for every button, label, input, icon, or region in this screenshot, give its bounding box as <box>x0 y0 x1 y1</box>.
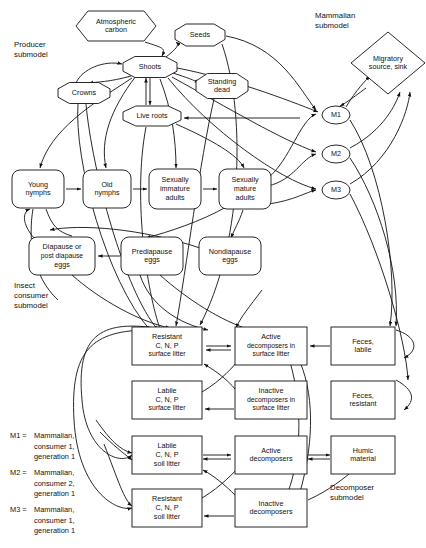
caption-mammalian: Mammalian <box>315 11 355 20</box>
edge-atmospheric-carbon-to-shoots <box>145 42 164 56</box>
node-label-feces-labile: labile <box>355 345 372 354</box>
node-label-inactive-decomposers-surface: surface litter <box>252 404 290 411</box>
node-label-old-nymphs: nymphs <box>94 188 120 197</box>
node-label-shoots: Shoots <box>139 62 162 71</box>
node-label-feces-resistant: resistant <box>349 399 376 408</box>
node-m3[interactable]: M3 <box>322 181 350 199</box>
edge-shoots-to-standing-dead <box>173 73 199 83</box>
caption-insect: Insect <box>14 281 36 290</box>
node-label-crowns: Crowns <box>72 88 97 97</box>
edge-insect-to-m1 <box>268 114 316 178</box>
node-label-atmospheric-carbon: carbon <box>105 25 127 34</box>
node-label-resistant-surface-litter: C, N, P <box>155 341 178 350</box>
edge-eggs-down-litter2 <box>140 275 208 330</box>
edge-liveroots-to-mature <box>176 124 244 168</box>
edge-seeds-to-m1 <box>226 36 316 110</box>
legend-line: Mammalian, <box>34 505 74 514</box>
edge-crowns-down-to-litter <box>78 104 150 330</box>
node-label-humic-material: material <box>350 454 376 463</box>
caption-producer: submodel <box>14 50 48 59</box>
node-m2[interactable]: M2 <box>322 145 350 163</box>
node-label-migratory-source-sink: source, sink <box>369 62 408 71</box>
node-active-decomposers-surface[interactable]: Activedecomposers insurface litter <box>235 327 307 365</box>
legend-key: M3 = <box>10 505 27 514</box>
node-resistant-surface-litter[interactable]: ResistantC, N, Psurface litter <box>132 327 202 365</box>
edge-migratory-to-m1 <box>340 88 366 106</box>
node-active-decomposers[interactable]: Activedecomposers <box>235 436 307 474</box>
edge-m1-to-migratory <box>346 76 370 107</box>
node-sexually-mature-adults[interactable]: Sexuallymatureadults <box>219 169 271 209</box>
legend-line: consumer 1, <box>34 442 75 451</box>
node-label-inactive-decomposers: decomposers <box>249 507 293 516</box>
node-sexually-immature-adults[interactable]: Sexuallyimmatureadults <box>149 169 201 209</box>
caption-insect: consumer <box>14 291 49 300</box>
node-feces-resistant[interactable]: Feces,resistant <box>331 381 395 419</box>
edge-surface-left-loop4 <box>74 420 132 508</box>
node-label-live-roots: Live roots <box>136 111 168 120</box>
node-label-sexually-immature-adults: adults <box>165 193 185 202</box>
ecosystem-diagram: AtmosphericcarbonSeedsShootsStandingdead… <box>0 0 426 548</box>
edge-left-down-to-labile-soil <box>96 420 132 453</box>
caption-decomposer: Decomposer <box>330 483 375 492</box>
node-label-young-nymphs: nymphs <box>25 188 51 197</box>
node-labile-soil-litter[interactable]: LabileC, N, Psoil litter <box>132 436 202 474</box>
node-label-resistant-surface-litter: surface litter <box>148 350 186 357</box>
node-label-active-decomposers: decomposers <box>249 454 293 463</box>
node-prediapause-eggs[interactable]: Prediapauseeggs <box>121 237 183 275</box>
legend-line: Mammalian, <box>34 468 74 477</box>
node-label-diapause-eggs: Diapause or <box>43 242 82 251</box>
node-humic-material[interactable]: Humicmaterial <box>331 436 395 474</box>
node-label-labile-surface-litter: C, N, P <box>155 395 178 404</box>
edge-shoots-to-seeds <box>166 42 178 57</box>
caption-producer: Producer <box>14 40 46 49</box>
node-label-active-decomposers-surface: decomposers in <box>247 342 295 350</box>
node-label-diapause-eggs: eggs <box>54 260 70 269</box>
node-crowns[interactable]: Crowns <box>58 83 110 104</box>
edge-m3-to-migratory <box>350 92 410 184</box>
node-diapause-eggs[interactable]: Diapause orpost diapauseeggs <box>29 237 95 275</box>
legend-line: consumer 2, <box>34 479 75 488</box>
node-inactive-decomposers-surface[interactable]: Inactivedecomposers insurface litter <box>235 381 307 419</box>
caption-mammalian: submodel <box>315 21 349 30</box>
edge-labile-to-active-surface <box>202 358 240 392</box>
node-label-labile-surface-litter: surface litter <box>148 404 186 411</box>
node-feces-labile[interactable]: Feces,labile <box>331 327 395 365</box>
legend-line: consumer 1, <box>34 516 75 525</box>
node-label-prediapause-eggs: eggs <box>144 255 160 264</box>
node-resistant-soil-litter[interactable]: ResistantC, N, Psoil litter <box>132 489 202 527</box>
diagram-canvas: AtmosphericcarbonSeedsShootsStandingdead… <box>0 0 426 548</box>
node-nondiapause-eggs[interactable]: Nondiapauseeggs <box>199 237 261 275</box>
edge-center-down-to-surface <box>236 290 262 328</box>
node-m1[interactable]: M1 <box>322 106 350 124</box>
legend-line: generation 1 <box>34 526 75 535</box>
edge-young-to-eggs-path <box>46 209 72 236</box>
caption-decomposer: submodel <box>330 493 364 502</box>
node-seeds[interactable]: Seeds <box>175 24 225 46</box>
legend-line: generation 1 <box>34 489 75 498</box>
edge-liveroots-down-to-litter <box>141 127 162 334</box>
legend-key: M1 = <box>10 431 27 440</box>
node-label-active-decomposers-surface: surface litter <box>252 350 290 357</box>
node-label-resistant-soil-litter: soil litter <box>154 512 181 521</box>
caption-insect: submodel <box>14 301 48 310</box>
edge-m2-to-feces-labile <box>350 158 396 326</box>
edge-m2-to-migratory <box>350 92 400 148</box>
edge-eggs-to-litter <box>160 275 250 330</box>
node-standing-dead[interactable]: Standingdead <box>196 74 248 99</box>
node-atmospheric-carbon[interactable]: Atmosphericcarbon <box>76 11 156 41</box>
edge-feces-resistant-right <box>396 380 412 410</box>
node-young-nymphs[interactable]: Youngnymphs <box>12 170 64 208</box>
node-label-nondiapause-eggs: eggs <box>222 255 238 264</box>
node-labile-surface-litter[interactable]: LabileC, N, Psurface litter <box>132 381 202 419</box>
node-old-nymphs[interactable]: Oldnymphs <box>83 170 131 208</box>
node-label-m3: M3 <box>331 185 341 194</box>
edge-shoots-to-crowns-down <box>89 76 131 83</box>
node-inactive-decomposers[interactable]: Inactivedecomposers <box>235 489 307 527</box>
node-shoots[interactable]: Shoots <box>123 57 177 78</box>
node-live-roots[interactable]: Live roots <box>123 106 181 126</box>
node-label-inactive-decomposers-surface: Inactive <box>259 386 284 395</box>
node-label-inactive-decomposers-surface: decomposers in <box>247 396 295 404</box>
legend-line: Mammalian, <box>34 431 74 440</box>
node-label-active-decomposers-surface: Active <box>261 332 281 341</box>
node-label-standing-dead: dead <box>214 85 230 94</box>
